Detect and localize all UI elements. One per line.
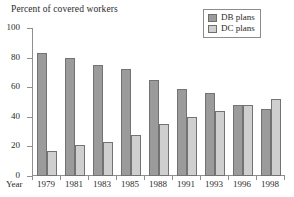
x-label-1981: 1981 [60,178,88,191]
x-axis-labels: Year 19791981198319851988199119931996199… [0,178,294,194]
x-label-1979: 1979 [32,178,60,191]
bar-dc-1991 [187,117,197,176]
plot-area: 100806040200 [32,28,284,176]
bar-dc-1988 [159,124,169,176]
x-label-1996: 1996 [228,178,256,191]
bar-dc-1996 [243,105,253,176]
x-label-1988: 1988 [144,178,172,191]
bar-db-1993 [205,93,215,176]
bar-dc-1981 [75,145,85,176]
x-label-1998: 1998 [256,178,284,191]
chart-title: Percent of covered workers [11,4,118,14]
x-label-1985: 1985 [116,178,144,191]
bar-db-1981 [65,58,75,176]
legend-swatch-db-icon [208,14,217,22]
y-tick-label-100: 100 [7,22,21,33]
legend-label-db-plans: DB plans [221,12,255,23]
bar-dc-1998 [271,99,281,176]
bar-chart-figure: Percent of covered workers DB plans DC p… [0,0,294,197]
x-label-1993: 1993 [200,178,228,191]
x-label-1983: 1983 [88,178,116,191]
bar-dc-1993 [215,111,225,176]
bar-db-1979 [37,53,47,176]
bar-db-1988 [149,80,159,176]
bar-db-1985 [121,69,131,176]
bar-db-1998 [261,109,271,176]
y-tick-label-40: 40 [11,111,20,122]
x-label-1991: 1991 [172,178,200,191]
bar-dc-1983 [103,142,113,176]
x-axis-name: Year [6,178,23,191]
legend-item-db-plans: DB plans [208,12,255,23]
y-tick-label-80: 80 [11,52,20,63]
bar-series-group [33,28,284,176]
bar-db-1983 [93,65,103,176]
bar-dc-1979 [47,151,57,176]
bar-db-1991 [177,89,187,176]
y-tick-label-60: 60 [11,81,20,92]
bar-db-1996 [233,105,243,176]
y-tick-label-20: 20 [11,140,20,151]
bar-dc-1985 [131,135,141,176]
